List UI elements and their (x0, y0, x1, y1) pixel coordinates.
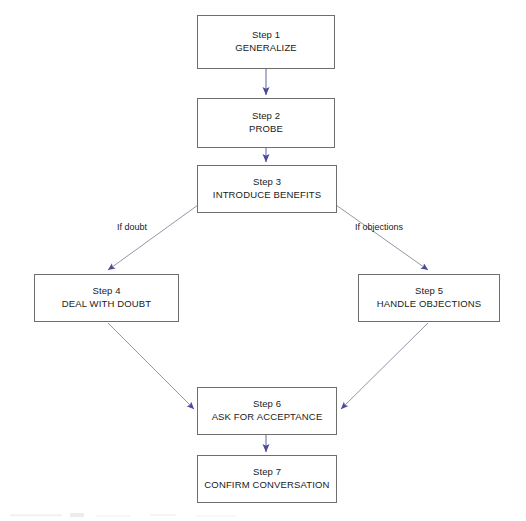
flowchart-canvas: Step 1 GENERALIZE Step 2 PROBE Step 3 IN… (0, 0, 526, 521)
connector-layer (0, 0, 526, 521)
node-step1-number: Step 1 (252, 29, 280, 42)
edge-label-if-objections: If objections (355, 222, 403, 232)
node-step4-title: DEAL WITH DOUBT (62, 298, 152, 311)
node-step3[interactable]: Step 3 INTRODUCE BENEFITS (197, 165, 337, 213)
connector-step3-step5 (336, 205, 428, 270)
node-step5-title: HANDLE OBJECTIONS (377, 298, 481, 311)
node-step7[interactable]: Step 7 CONFIRM CONVERSATION (197, 455, 337, 503)
node-step2[interactable]: Step 2 PROBE (197, 98, 335, 148)
connector-step3-step4 (108, 205, 198, 270)
node-step5[interactable]: Step 5 HANDLE OBJECTIONS (358, 274, 500, 322)
node-step1-title: GENERALIZE (235, 42, 297, 55)
node-step6-number: Step 6 (253, 398, 281, 411)
node-step3-number: Step 3 (253, 176, 281, 189)
node-step1[interactable]: Step 1 GENERALIZE (197, 15, 335, 69)
node-step5-number: Step 5 (415, 285, 443, 298)
scan-artifact (0, 507, 526, 521)
connector-step4-step6 (108, 323, 194, 409)
node-step2-number: Step 2 (252, 110, 280, 123)
node-step2-title: PROBE (249, 123, 283, 136)
node-step7-title: CONFIRM CONVERSATION (204, 479, 329, 492)
node-step7-number: Step 7 (253, 466, 281, 479)
node-step6[interactable]: Step 6 ASK FOR ACCEPTANCE (197, 387, 337, 435)
node-step4[interactable]: Step 4 DEAL WITH DOUBT (34, 274, 179, 322)
edge-label-if-doubt: If doubt (117, 222, 147, 232)
node-step6-title: ASK FOR ACCEPTANCE (212, 411, 323, 424)
node-step3-title: INTRODUCE BENEFITS (213, 189, 321, 202)
node-step4-number: Step 4 (92, 285, 120, 298)
connector-step5-step6 (341, 323, 428, 409)
